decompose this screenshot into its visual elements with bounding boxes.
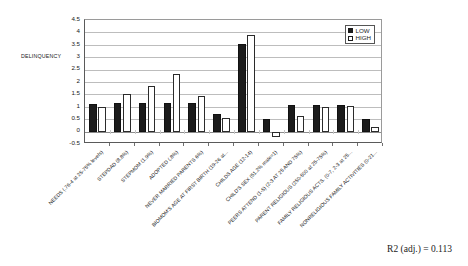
x-tick-mark [332, 143, 333, 146]
x-tick-mark [258, 143, 259, 146]
category-separator [333, 130, 334, 134]
bar-high-4 [198, 96, 205, 132]
x-tick-mark [208, 143, 209, 146]
bar-high-10 [347, 106, 354, 131]
y-tick-1p5: 1.5 [58, 90, 80, 96]
bar-low-2 [139, 103, 146, 132]
bar-high-0 [98, 107, 105, 132]
gridline-3 [85, 57, 381, 58]
bar-low-10 [337, 105, 344, 132]
bar-high-1 [123, 94, 130, 131]
x-tick-mark [134, 143, 135, 146]
category-separator [309, 130, 310, 134]
bar-low-9 [313, 105, 320, 132]
y-tick-0: 0 [58, 127, 80, 133]
gridline-2.5 [85, 70, 381, 71]
bar-low-8 [288, 105, 295, 131]
plot-area: LOW HIGH [84, 19, 382, 143]
x-tick-mark [283, 143, 284, 146]
category-separator [259, 130, 260, 134]
bar-high-7 [272, 132, 279, 137]
y-tick-4: 4 [58, 28, 80, 34]
category-separator [110, 130, 111, 134]
x-tick-mark [357, 143, 358, 146]
legend-swatch-low-icon [348, 28, 353, 33]
bar-high-9 [322, 107, 329, 132]
bar-low-7 [263, 119, 270, 131]
y-axis-title: DELINQUENCY [21, 53, 61, 59]
zero-baseline [85, 132, 381, 133]
gridline-2 [85, 82, 381, 83]
category-separator [284, 130, 285, 134]
bar-high-5 [222, 118, 229, 132]
category-separator [358, 130, 359, 134]
y-tick-2p5: 2.5 [58, 65, 80, 71]
bar-high-8 [297, 116, 304, 131]
legend-label-high: HIGH [356, 35, 371, 41]
r2-adjusted-annotation: R2 (adj.) = 0.113 [387, 244, 452, 254]
legend-swatch-high-icon [348, 36, 353, 41]
bar-high-2 [148, 86, 155, 131]
y-tick-2: 2 [58, 78, 80, 84]
bar-low-5 [213, 114, 220, 132]
y-tick-neg0p5: -0.5 [58, 140, 80, 146]
legend-item-high[interactable]: HIGH [348, 35, 371, 41]
bar-high-3 [173, 74, 180, 132]
category-separator [135, 130, 136, 134]
delinquency-bar-chart: DELINQUENCY 4.543.532.521.510.50-0.5 LOW… [0, 0, 468, 266]
x-tick-mark [308, 143, 309, 146]
gridline-4 [85, 32, 381, 33]
bar-low-1 [114, 103, 121, 132]
y-tick-1: 1 [58, 103, 80, 109]
x-tick-mark [159, 143, 160, 146]
category-separator [184, 130, 185, 134]
bar-low-11 [362, 119, 369, 132]
category-label-1: STEPDAD (8.8%) [0, 149, 129, 266]
bar-high-11 [371, 127, 378, 132]
category-separator [234, 130, 235, 134]
category-separator [209, 130, 210, 134]
bar-low-4 [188, 103, 195, 132]
y-tick-4p5: 4.5 [58, 16, 80, 22]
chart-legend[interactable]: LOW HIGH [345, 25, 375, 44]
x-tick-mark [109, 143, 110, 146]
bar-low-3 [164, 103, 171, 132]
legend-label-low: LOW [356, 28, 370, 34]
bar-low-0 [89, 104, 96, 132]
gridline-3.5 [85, 45, 381, 46]
legend-item-low[interactable]: LOW [348, 28, 371, 34]
y-tick-0p5: 0.5 [58, 115, 80, 121]
bar-low-6 [238, 44, 245, 131]
y-tick-3: 3 [58, 53, 80, 59]
y-tick-3p5: 3.5 [58, 41, 80, 47]
category-separator [160, 130, 161, 134]
x-tick-mark [233, 143, 234, 146]
x-tick-mark [382, 143, 383, 146]
x-tick-mark [183, 143, 184, 146]
bar-high-6 [247, 35, 254, 132]
